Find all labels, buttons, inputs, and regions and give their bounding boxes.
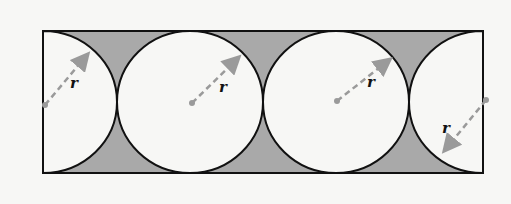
circles-in-rectangle-diagram: r r r r — [0, 0, 511, 204]
radius-label-2: r — [219, 78, 228, 96]
radius-label-4: r — [442, 119, 451, 137]
radius-label-3: r — [367, 73, 376, 91]
radius-label-1: r — [70, 74, 79, 92]
